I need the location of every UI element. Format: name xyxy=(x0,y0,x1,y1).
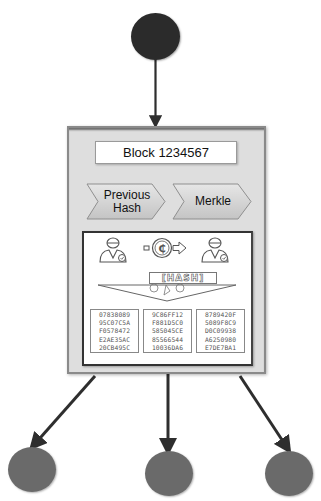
hash-value: E7DE7BA1 xyxy=(197,344,244,352)
field-label-line2: Hash xyxy=(113,201,141,215)
child-node-right xyxy=(265,451,313,496)
hash-funnel-gears-icon xyxy=(96,283,238,303)
block-title: Block 1234567 xyxy=(95,141,237,164)
hash-value: D0C09938 xyxy=(197,327,244,335)
user-right-icon xyxy=(197,236,237,266)
hash-value: E2AE35AC xyxy=(91,336,138,344)
field-label-line1: Previous xyxy=(104,188,151,202)
hash-value: 9C86FF12 xyxy=(144,311,191,319)
hash-value: 07838089 xyxy=(91,311,138,319)
hash-value: 8789420F xyxy=(197,311,244,319)
hash-column-1: 07838089 95C07C5A F0578472 E2AE35AC 20CB… xyxy=(90,309,139,353)
hash-value: 10036DA6 xyxy=(144,344,191,352)
hash-value: 85566544 xyxy=(144,336,191,344)
parent-node xyxy=(131,13,180,60)
hash-value: 5089F8C9 xyxy=(197,319,244,327)
svg-text:₵: ₵ xyxy=(158,242,166,255)
arrow-block-to-child-left xyxy=(33,376,95,446)
user-left-icon xyxy=(97,236,137,266)
field-label: Merkle xyxy=(182,183,244,220)
hash-value: 95C07C5A xyxy=(91,319,138,327)
hash-value: A6250980 xyxy=(197,336,244,344)
hash-column-2: 9C86FF12 F881D5C0 585045CE 85566544 1003… xyxy=(143,309,192,353)
child-node-left xyxy=(8,447,56,492)
field-label: PreviousHash xyxy=(96,183,158,220)
field-merkle: Merkle xyxy=(172,183,252,220)
hash-column-3: 8789420F 5089F8C9 D0C09938 A6250980 E7DE… xyxy=(196,309,245,353)
child-node-center xyxy=(145,451,193,496)
field-previous-hash: PreviousHash xyxy=(86,183,166,220)
coin-transfer-icon: ₵ xyxy=(143,237,193,261)
hash-value: F881D5C0 xyxy=(144,319,191,327)
hash-label: [HASH] xyxy=(149,272,217,284)
hash-value: 585045CE xyxy=(144,327,191,335)
arrow-block-to-child-right xyxy=(240,376,288,449)
hash-value: 20CB495C xyxy=(91,344,138,352)
hash-value: F0578472 xyxy=(91,327,138,335)
